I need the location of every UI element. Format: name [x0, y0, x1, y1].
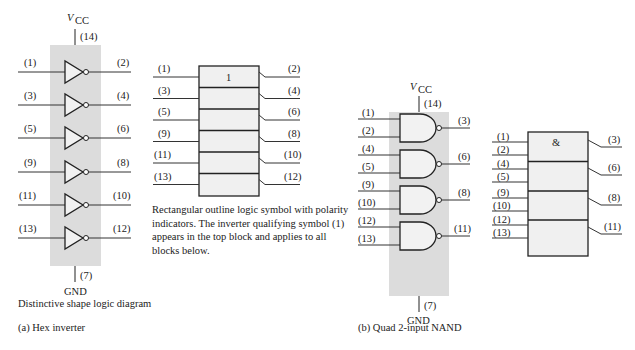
- vcc-pin-label: (14): [424, 98, 442, 110]
- output-pin-label: (10): [284, 149, 302, 161]
- inversion-bubble-icon: [84, 170, 89, 175]
- hex-inverter-rectangular: 1 (1) (2) (3) (4) (5) (6) (9) (8): [153, 63, 302, 196]
- input-pin-label: (4): [497, 158, 510, 170]
- output-pin-label: (11): [454, 223, 472, 235]
- output-pin-label: (4): [117, 90, 130, 102]
- input-pin-label: (11): [154, 149, 172, 161]
- input-pin-label: (5): [362, 161, 375, 173]
- input-pin-label: (13): [19, 223, 37, 235]
- input-pin-label: (9): [362, 179, 375, 191]
- output-pin-label: (4): [288, 85, 301, 97]
- gnd-pin-label: (7): [80, 270, 93, 282]
- output-pin-label: (6): [458, 151, 471, 163]
- input-pin-label: (10): [358, 197, 376, 209]
- quad-nand-distinctive: V CC (14) (7) GND (1) (2) (3) (4) (5) (6…: [358, 81, 472, 326]
- rect-symbol-note: Rectangular outline logic symbol with po…: [152, 203, 352, 257]
- input-pin-label: (2): [497, 144, 510, 156]
- inverter-qualifier-symbol: 1: [226, 72, 231, 83]
- output-pin-label: (6): [117, 123, 130, 135]
- input-pin-label: (4): [362, 143, 375, 155]
- inversion-bubble-icon: [84, 70, 89, 75]
- input-pin-label: (1): [158, 63, 171, 75]
- vcc-label: V: [410, 81, 418, 92]
- vcc-subscript: CC: [418, 84, 432, 95]
- output-pin-label: (2): [288, 63, 301, 75]
- hex-inverter-distinctive: V CC (14) (7) GND (1) (2) (3) (4) (5): [18, 12, 131, 297]
- figure-caption-a: (a) Hex inverter: [18, 321, 85, 334]
- nand-gate-icon: [400, 114, 436, 142]
- nand-gate-icon: [400, 186, 436, 214]
- input-pin-label: (9): [497, 187, 510, 199]
- output-pin-label: (8): [117, 157, 130, 169]
- input-pin-label: (3): [24, 90, 37, 102]
- input-pin-label: (1): [497, 131, 510, 143]
- output-pin-label: (3): [458, 115, 471, 127]
- inversion-bubble-icon: [84, 203, 89, 208]
- output-pin-label: (6): [288, 106, 301, 118]
- inversion-bubble-icon: [437, 198, 442, 203]
- inversion-bubble-icon: [84, 236, 89, 241]
- output-pin-label: (3): [608, 134, 621, 146]
- input-pin-label: (9): [24, 157, 37, 169]
- input-pin-label: (12): [493, 214, 511, 226]
- output-pin-label: (8): [288, 128, 301, 140]
- quad-nand-rectangular: & (1) (2) (3) (4) (5) (6) (9) (10) (8): [492, 131, 622, 256]
- output-pin-label: (8): [608, 192, 621, 204]
- nand-gate-icon: [400, 222, 436, 250]
- input-pin-label: (2): [362, 125, 375, 137]
- output-pin-label: (8): [458, 187, 471, 199]
- output-pin-label: (11): [604, 221, 622, 233]
- input-pin-label: (3): [158, 85, 171, 97]
- vcc-subscript: CC: [75, 15, 89, 26]
- input-pin-label: (10): [493, 200, 511, 212]
- inversion-bubble-icon: [84, 103, 89, 108]
- inversion-bubble-icon: [437, 126, 442, 131]
- output-pin-label: (10): [113, 190, 131, 202]
- gnd-label: GND: [64, 286, 87, 297]
- vcc-pin-label: (14): [80, 31, 98, 43]
- input-pin-label: (12): [358, 215, 376, 227]
- inversion-bubble-icon: [437, 162, 442, 167]
- input-pin-label: (5): [497, 171, 510, 183]
- input-pin-label: (13): [358, 233, 376, 245]
- output-pin-label: (2): [117, 57, 130, 69]
- inversion-bubble-icon: [84, 136, 89, 141]
- input-pin-label: (9): [158, 128, 171, 140]
- input-pin-label: (13): [493, 227, 511, 239]
- output-pin-label: (6): [608, 162, 621, 174]
- vcc-label: V: [67, 12, 75, 23]
- output-pin-label: (12): [284, 171, 302, 183]
- input-pin-label: (1): [24, 57, 37, 69]
- input-pin-label: (13): [154, 171, 172, 183]
- distinctive-shape-caption: Distinctive shape logic diagram: [18, 297, 151, 310]
- inversion-bubble-icon: [437, 234, 442, 239]
- input-pin-label: (5): [24, 123, 37, 135]
- and-qualifier-symbol: &: [552, 137, 560, 148]
- figure-caption-b: (b) Quad 2-input NAND: [358, 321, 462, 334]
- output-pin-label: (12): [113, 223, 131, 235]
- rect-symbol-body: [528, 132, 588, 256]
- input-pin-label: (5): [158, 106, 171, 118]
- input-pin-label: (11): [19, 190, 37, 202]
- nand-gate-icon: [400, 150, 436, 178]
- gnd-pin-label: (7): [424, 300, 437, 312]
- input-pin-label: (1): [362, 107, 375, 119]
